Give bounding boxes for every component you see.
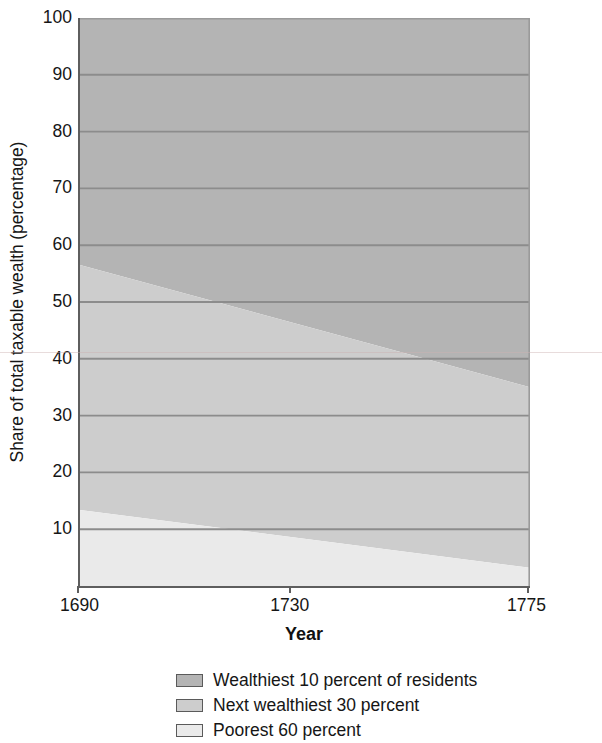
plot-area [78, 18, 530, 588]
legend-label-1: Next wealthiest 30 percent [213, 697, 419, 715]
x-tick-label-1775: 1775 [507, 597, 546, 615]
y-tick-label-70: 70 [26, 180, 72, 198]
y-tick-label-90: 90 [26, 66, 72, 84]
y-tick-label-10: 10 [26, 520, 72, 538]
y-tick-label-50: 50 [26, 293, 72, 311]
legend-swatch-2 [176, 724, 203, 737]
y-tick-label-80: 80 [26, 123, 72, 141]
legend-item-0[interactable]: Wealthiest 10 percent of residents [176, 668, 596, 693]
y-tick-label-30: 30 [26, 407, 72, 425]
chart-figure: Share of total taxable wealth (percentag… [0, 0, 602, 743]
y-tick-label-20: 20 [26, 464, 72, 482]
x-tick-label-1730: 1730 [270, 597, 309, 615]
stacked-area-plot [80, 18, 530, 586]
y-tick-label-40: 40 [26, 350, 72, 368]
x-tick-mark-1730 [289, 586, 291, 593]
chart-legend: Wealthiest 10 percent of residentsNext w… [176, 668, 596, 743]
legend-swatch-1 [176, 699, 203, 712]
legend-item-2[interactable]: Poorest 60 percent [176, 718, 596, 743]
y-axis-tick-labels: 102030405060708090100 [26, 0, 72, 743]
legend-label-0: Wealthiest 10 percent of residents [213, 672, 477, 690]
legend-item-1[interactable]: Next wealthiest 30 percent [176, 693, 596, 718]
x-tick-mark-1690 [77, 586, 79, 593]
legend-label-2: Poorest 60 percent [213, 722, 361, 740]
y-tick-label-100: 100 [26, 9, 72, 27]
y-tick-label-60: 60 [26, 236, 72, 254]
legend-swatch-0 [176, 674, 203, 687]
x-tick-label-1690: 1690 [60, 597, 99, 615]
x-tick-mark-1775 [527, 586, 529, 593]
x-axis-title: Year [78, 624, 530, 645]
